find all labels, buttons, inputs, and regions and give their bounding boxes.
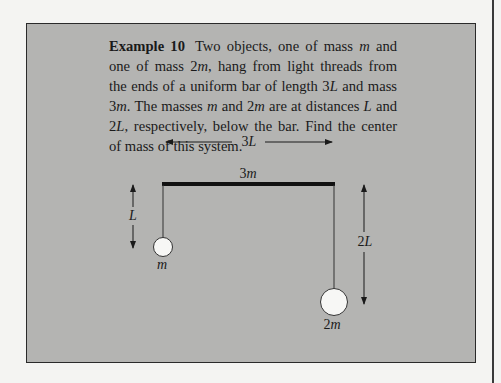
bar-mass-label: 3m: [239, 166, 256, 182]
left-distance-label: L: [129, 208, 137, 224]
right-distance-label: 2L: [358, 234, 373, 250]
bar-length-label: 3L: [242, 134, 257, 150]
uniform-bar: [162, 182, 335, 186]
left-mass-label: m: [157, 257, 167, 273]
mass-m-circle: [154, 238, 173, 257]
mass-2m-circle: [321, 289, 348, 316]
center-of-mass-diagram: [0, 0, 501, 383]
right-mass-label: 2m: [323, 317, 340, 333]
